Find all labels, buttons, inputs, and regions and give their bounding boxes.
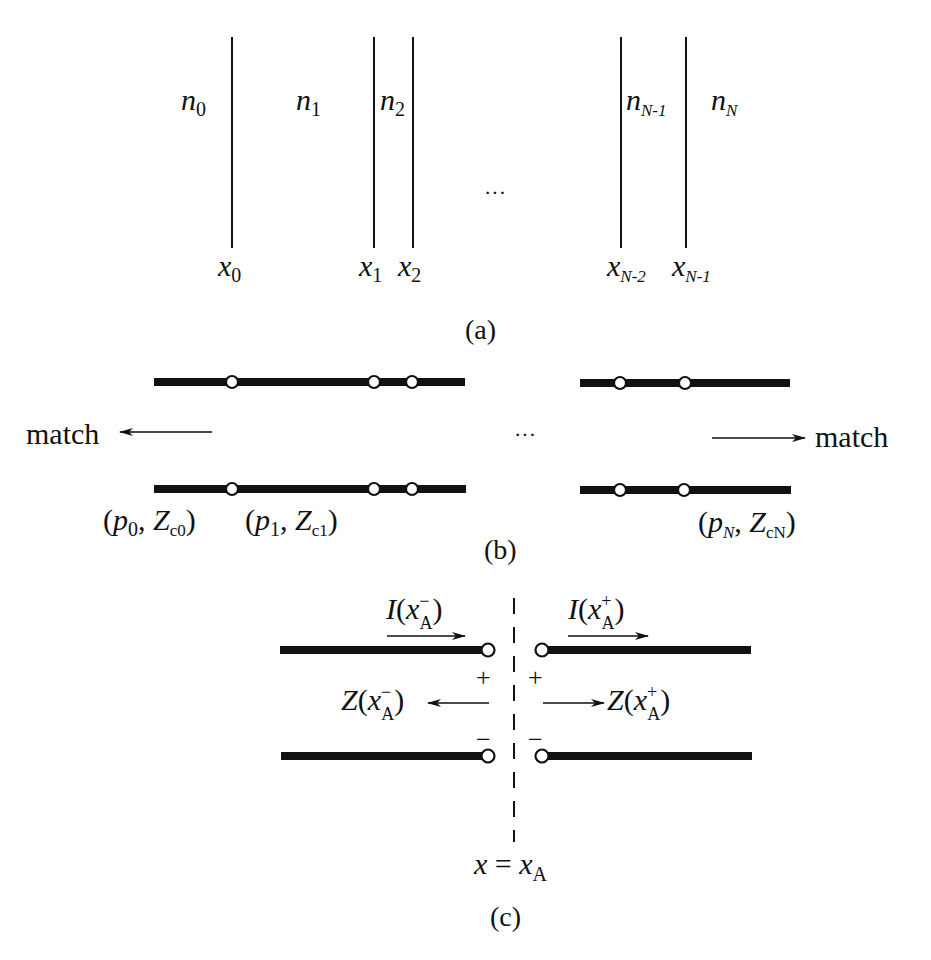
medium-label-nN-1: nN-1 [626, 83, 667, 120]
param-label-N: (pN, ZcN) [698, 505, 796, 542]
plane-label: x = xA [473, 847, 548, 885]
ellipsis-a: ··· [484, 180, 506, 205]
interface-label-x2: x2 [397, 249, 421, 286]
junction-node [368, 376, 380, 388]
junction-node [368, 483, 380, 495]
interface-label-xN-2: xN-2 [606, 249, 646, 286]
interface-label-x1: x1 [358, 249, 382, 286]
junction-node [614, 484, 626, 496]
plus-sign-left: + [476, 663, 491, 692]
junction-node [678, 484, 690, 496]
panel-b: match ··· match (p0, Zc0) (p1, Zc1) (pN,… [26, 376, 888, 565]
caption-b: (b) [484, 534, 517, 565]
impedance-label-right: Z(x+A) [607, 682, 670, 724]
junction-node [406, 483, 418, 495]
caption-c: (c) [490, 901, 521, 932]
current-label-left: I(x−A) [385, 591, 442, 633]
caption-a: (a) [465, 314, 496, 345]
panel-c: I(x−A) I(x+A) + + − − Z(x−A) Z(x+A) x = … [280, 591, 752, 932]
plus-sign-right: + [528, 663, 543, 692]
param-label-0: (p0, Zc0) [103, 503, 196, 540]
param-label-1: (p1, Zc1) [245, 503, 338, 540]
interface-label-xN-1: xN-1 [671, 249, 711, 286]
medium-label-nN: nN [711, 83, 739, 120]
panel-a: n0 n1 n2 nN-1 nN ··· x0 x1 x2 xN-2 xN-1 … [181, 37, 739, 345]
terminal-node [536, 644, 549, 657]
junction-node [226, 483, 238, 495]
medium-label-n0: n0 [181, 83, 206, 120]
junction-node [406, 376, 418, 388]
minus-sign-left: − [476, 725, 491, 754]
terminal-node [482, 644, 495, 657]
medium-label-n1: n1 [296, 83, 321, 120]
current-label-right: I(x+A) [567, 591, 624, 633]
junction-node [679, 377, 691, 389]
impedance-label-left: Z(x−A) [341, 682, 404, 724]
interface-label-x0: x0 [217, 249, 241, 286]
diagram-canvas: n0 n1 n2 nN-1 nN ··· x0 x1 x2 xN-2 xN-1 … [0, 0, 931, 960]
junction-node [226, 376, 238, 388]
minus-sign-right: − [528, 725, 543, 754]
match-label-left: match [26, 417, 99, 450]
match-label-right: match [815, 420, 888, 453]
ellipsis-b: ··· [514, 422, 536, 447]
medium-label-n2: n2 [380, 83, 405, 120]
junction-node [614, 377, 626, 389]
